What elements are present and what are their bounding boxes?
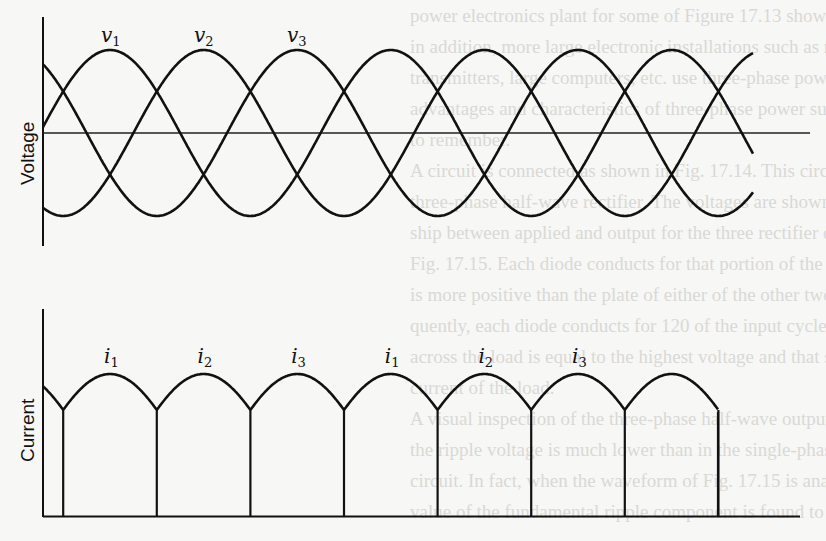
waveform-figure: Voltage v1 v2 v3 Current i1i2i3i1i2i3	[0, 0, 826, 541]
commutation-lines	[63, 410, 718, 517]
current-pulse-labels: i1i2i3i1i2i3	[104, 344, 587, 370]
label-v1: v1	[101, 23, 121, 49]
current-panel: Current i1i2i3i1i2i3	[17, 309, 800, 517]
voltage-axis-label: Voltage	[17, 122, 38, 185]
label-v2: v2	[194, 23, 214, 49]
label-i1: i1	[104, 344, 119, 370]
label-i1: i1	[385, 344, 400, 370]
voltage-panel: Voltage v1 v2 v3	[17, 17, 810, 246]
label-i2: i2	[198, 344, 213, 370]
current-envelope	[43, 374, 718, 410]
current-axis-label: Current	[17, 398, 38, 462]
label-v3: v3	[287, 23, 307, 49]
label-i2: i2	[478, 344, 493, 370]
label-i3: i3	[291, 344, 306, 370]
label-i3: i3	[572, 344, 587, 370]
